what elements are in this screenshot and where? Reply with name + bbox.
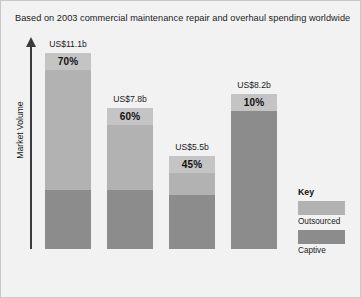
legend-swatch-outsourced <box>298 201 345 215</box>
bar-percent-label: 60% <box>120 111 141 122</box>
legend-label-captive: Captive <box>298 246 350 255</box>
bar-stack: 70% <box>45 53 91 249</box>
bar-segment-captive <box>45 190 91 249</box>
bar-segment-outsourced: 60% <box>107 108 153 190</box>
y-axis-line <box>30 45 32 249</box>
bar-stack: 10% <box>231 94 277 249</box>
chart-container: Based on 2003 commercial maintenance rep… <box>0 0 361 298</box>
bar-value-label: US$8.2b <box>231 80 277 90</box>
bar-stack: 45% <box>169 156 215 249</box>
legend-title: Key <box>298 187 350 197</box>
bar-value-label: US$7.8b <box>107 94 153 104</box>
bar-percent-band: 10% <box>231 94 277 111</box>
bar-segment-outsourced: 10% <box>231 94 277 111</box>
bar-stack: 60% <box>107 108 153 249</box>
bar-segment-outsourced: 45% <box>169 156 215 195</box>
bar-segment-captive <box>231 111 277 249</box>
legend: Key Outsourced Captive <box>298 187 350 259</box>
bar-percent-label: 45% <box>182 159 203 170</box>
legend-swatch-captive <box>298 230 345 244</box>
bar-percent-band: 70% <box>45 53 91 70</box>
bar-segment-outsourced: 70% <box>45 53 91 190</box>
bar-percent-label: 10% <box>244 97 265 108</box>
bar-value-label: US$11.1b <box>45 39 91 49</box>
bar-value-label: US$5.5b <box>169 142 215 152</box>
bar-percent-band: 45% <box>169 156 215 173</box>
y-axis-label: Market Volume <box>15 85 25 175</box>
chart-title: Based on 2003 commercial maintenance rep… <box>15 13 350 23</box>
bar-percent-label: 70% <box>58 56 79 67</box>
bar-segment-captive <box>169 195 215 249</box>
bar-percent-band: 60% <box>107 108 153 125</box>
bar-segment-captive <box>107 190 153 249</box>
legend-label-outsourced: Outsourced <box>298 217 350 226</box>
plot-area: US$11.1b 70% Engine US$7.8b 60% <box>37 31 269 249</box>
